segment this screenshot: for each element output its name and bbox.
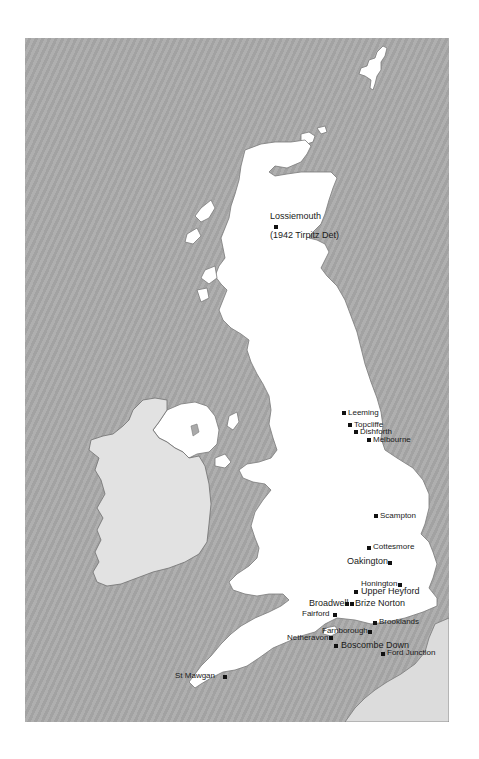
- airfield-label-oakington: Oakington: [347, 557, 388, 566]
- airfield-marker-scampton[interactable]: [374, 514, 378, 518]
- airfield-label-st-mawgan: St Mawgan: [175, 672, 215, 680]
- airfield-marker-upper-heyford[interactable]: [354, 590, 358, 594]
- airfield-label-broadwell: Broadwell: [309, 599, 349, 608]
- airfield-marker-dishforth[interactable]: [354, 430, 358, 434]
- airfield-label-melbourne: Melbourne: [373, 436, 411, 444]
- airfield-label-lossiemouth: Lossiemouth: [270, 212, 321, 221]
- airfield-marker-ford-junction[interactable]: [381, 652, 385, 656]
- airfield-marker-brize-norton[interactable]: [350, 602, 354, 606]
- airfield-marker-melbourne[interactable]: [367, 438, 371, 442]
- airfield-label-farnborough: Farnborough: [322, 627, 368, 635]
- airfield-marker-st-mawgan[interactable]: [223, 675, 227, 679]
- airfield-label-brooklands: Brooklands: [379, 618, 419, 626]
- map-frame: Lossiemouth (1942 Tirpitz Det) Leeming T…: [25, 38, 449, 722]
- anglesey: [215, 454, 231, 468]
- airfield-label-brize-norton: Brize Norton: [355, 599, 405, 608]
- airfield-marker-leeming[interactable]: [342, 411, 346, 415]
- airfield-marker-brooklands[interactable]: [373, 621, 377, 625]
- airfield-marker-cottesmore[interactable]: [367, 546, 371, 550]
- airfield-label-ford-junction: Ford Junction: [387, 649, 435, 657]
- airfield-label-upper-heyford: Upper Heyford: [361, 587, 420, 596]
- shetland: [359, 46, 387, 90]
- airfield-note-lossiemouth: (1942 Tirpitz Det): [270, 231, 339, 240]
- airfield-label-scampton: Scampton: [380, 512, 416, 520]
- airfield-label-netheravon: Netheravon: [287, 634, 328, 642]
- airfield-label-cottesmore: Cottesmore: [373, 543, 414, 551]
- airfield-marker-topcliffe[interactable]: [348, 423, 352, 427]
- airfield-marker-farnborough[interactable]: [368, 630, 372, 634]
- airfield-marker-netheravon[interactable]: [329, 636, 333, 640]
- airfield-marker-lossiemouth[interactable]: [274, 225, 278, 229]
- hebrides: [185, 200, 217, 302]
- isle-of-man: [227, 412, 239, 430]
- airfield-marker-fairford[interactable]: [333, 613, 337, 617]
- airfield-label-fairford: Fairford: [302, 610, 330, 618]
- airfield-label-leeming: Leeming: [348, 409, 379, 417]
- airfield-marker-oakington[interactable]: [388, 561, 392, 565]
- airfield-marker-boscombe-down[interactable]: [334, 644, 338, 648]
